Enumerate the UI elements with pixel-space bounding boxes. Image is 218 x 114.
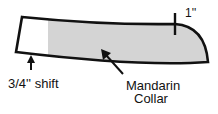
piece-name-line2: Collar: [134, 92, 168, 105]
measure-label: 1'': [185, 7, 196, 20]
shift-label: 3/4'' shift: [8, 77, 59, 90]
shift-arrow-icon: [27, 55, 35, 70]
